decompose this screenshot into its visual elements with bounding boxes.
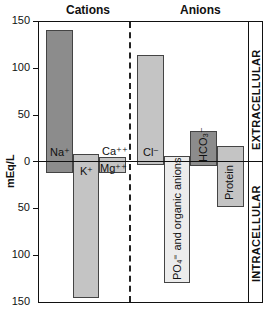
label-ca: Ca⁺⁺ <box>102 145 128 158</box>
label-po4: PO₄⁼ and organic anions <box>171 158 184 280</box>
bottom-border <box>38 302 262 303</box>
side-top-border <box>248 21 262 22</box>
zero-line <box>33 161 262 162</box>
top-border <box>38 21 248 22</box>
y-tick-150-top: 150 <box>0 14 30 26</box>
anions-header: Anions <box>180 3 221 17</box>
y-tick-50-bottom: 50 <box>0 201 30 213</box>
y-axis-line <box>38 21 39 303</box>
y-tick-0: 0 <box>0 155 30 167</box>
label-k: K⁺ <box>80 165 93 178</box>
cation-anion-divider <box>129 22 131 302</box>
cations-header: Cations <box>66 3 110 17</box>
region-divider-line <box>248 21 249 303</box>
label-cl: Cl⁻ <box>143 146 159 159</box>
intracellular-label: INTRACELLULAR <box>250 185 262 282</box>
y-tick-100-top: 100 <box>0 61 30 73</box>
right-border <box>262 21 263 303</box>
label-na: Na⁺ <box>50 146 70 159</box>
label-mg: Mg⁺⁺ <box>100 162 127 175</box>
y-tick-150-bottom: 150 <box>0 295 30 307</box>
label-hco3: HCO₃⁻ <box>197 127 210 162</box>
label-protein: Protein <box>223 165 235 200</box>
y-tick-50-top: 50 <box>0 108 30 120</box>
y-tick-100-bottom: 100 <box>0 248 30 260</box>
extracellular-label: EXTRACELLULAR <box>250 50 262 150</box>
